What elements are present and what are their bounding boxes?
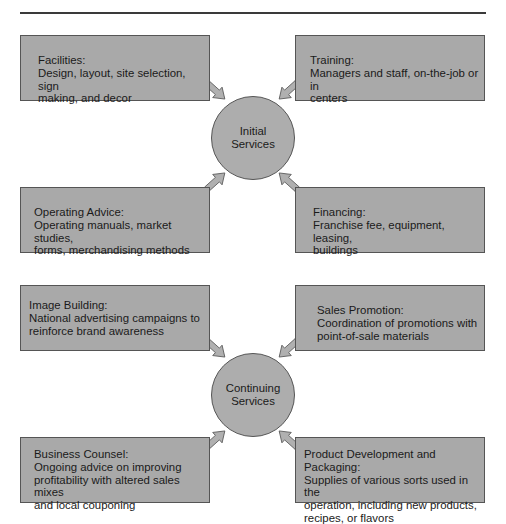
initial-services-hub: Initial Services <box>211 96 295 180</box>
box-description: Managers and staff, on-the-job or in cen… <box>310 67 484 105</box>
business-counsel-box: Business Counsel: Ongoing advice on impr… <box>20 437 210 503</box>
box-description: Supplies of various sorts used in the op… <box>304 474 484 524</box>
box-title: Product Development and Packaging: <box>304 448 484 474</box>
financing-box: Financing: Franchise fee, equipment, lea… <box>295 187 485 253</box>
box-title: Operating Advice: <box>34 206 209 219</box>
operating-advice-box: Operating Advice: Operating manuals, mar… <box>20 187 210 253</box>
box-description: Design, layout, site selection, sign mak… <box>38 67 209 105</box>
product-development-box: Product Development and Packaging: Suppl… <box>295 437 485 503</box>
training-box: Training: Managers and staff, on-the-job… <box>295 35 485 101</box>
box-title: Financing: <box>313 206 484 219</box>
continuing-services-hub: Continuing Services <box>211 353 295 437</box>
box-description: Franchise fee, equipment, leasing, build… <box>313 219 484 257</box>
box-description: Ongoing advice on improving profitabilit… <box>34 461 209 512</box>
box-description: National advertising campaigns to reinfo… <box>29 312 200 338</box>
box-description: Coordination of promotions with point-of… <box>317 317 477 343</box>
box-title: Business Counsel: <box>34 448 209 461</box>
box-description: Operating manuals, market studies, forms… <box>34 219 209 257</box>
facilities-box: Facilities: Design, layout, site selecti… <box>20 35 210 101</box>
box-title: Facilities: <box>38 54 209 67</box>
box-title: Image Building: <box>29 299 200 312</box>
sales-promotion-box: Sales Promotion: Coordination of promoti… <box>295 285 485 351</box>
image-building-box: Image Building: National advertising cam… <box>20 285 210 351</box>
box-title: Sales Promotion: <box>317 304 477 317</box>
box-title: Training: <box>310 54 484 67</box>
